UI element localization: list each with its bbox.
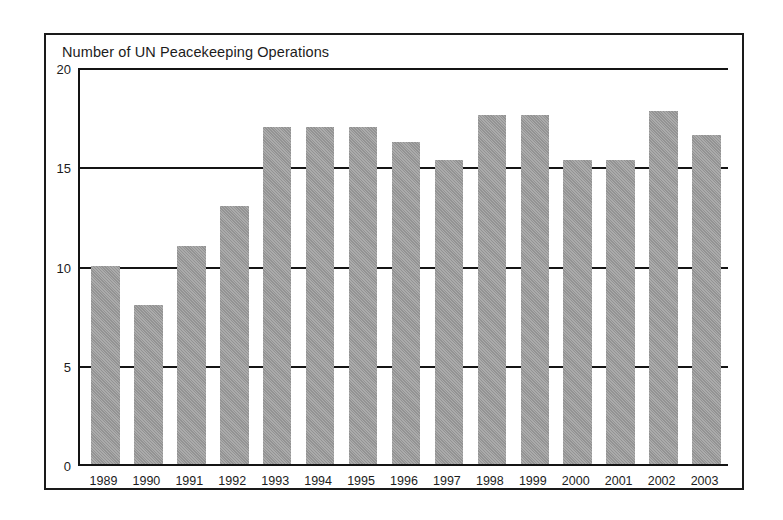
- bar-2001: [606, 160, 635, 464]
- y-tick-label-5: 5: [64, 359, 71, 374]
- y-tick-label-0: 0: [64, 459, 71, 474]
- x-tick-label-1999: 1999: [519, 474, 547, 488]
- bar-1996: [392, 142, 421, 464]
- y-tick-label-10: 10: [57, 260, 71, 275]
- x-tick-label-2002: 2002: [648, 474, 676, 488]
- x-tick-label-1998: 1998: [476, 474, 504, 488]
- x-tick-label-1991: 1991: [175, 474, 203, 488]
- y-tick-label-20: 20: [57, 62, 71, 77]
- bar-1990: [134, 305, 163, 464]
- x-tick-label-1997: 1997: [433, 474, 461, 488]
- x-tick-label-2003: 2003: [691, 474, 719, 488]
- bar-1989: [91, 266, 120, 465]
- y-tick-label-15: 15: [57, 161, 71, 176]
- bar-2002: [649, 111, 678, 464]
- figure-frame: Number of UN Peacekeeping Operations 051…: [44, 33, 744, 490]
- x-tick-label-1995: 1995: [347, 474, 375, 488]
- bar-2000: [563, 160, 592, 464]
- bar-1993: [263, 127, 292, 464]
- bar-1991: [177, 246, 206, 464]
- x-tick-label-1989: 1989: [90, 474, 118, 488]
- bar-2003: [692, 135, 721, 465]
- bar-series: [80, 69, 728, 464]
- x-tick-label-1990: 1990: [132, 474, 160, 488]
- x-tick-label-1992: 1992: [218, 474, 246, 488]
- x-tick-label-2000: 2000: [562, 474, 590, 488]
- bar-1995: [349, 127, 378, 464]
- x-tick-label-1994: 1994: [304, 474, 332, 488]
- chart-title: Number of UN Peacekeeping Operations: [62, 44, 329, 60]
- bar-1994: [306, 127, 335, 464]
- x-tick-label-2001: 2001: [605, 474, 633, 488]
- bar-1997: [435, 160, 464, 464]
- plot-area: 05101520 1989199019911992199319941995199…: [78, 69, 728, 466]
- bar-1999: [521, 115, 550, 464]
- x-tick-label-1996: 1996: [390, 474, 418, 488]
- bar-1992: [220, 206, 249, 464]
- x-tick-label-1993: 1993: [261, 474, 289, 488]
- bar-1998: [478, 115, 507, 464]
